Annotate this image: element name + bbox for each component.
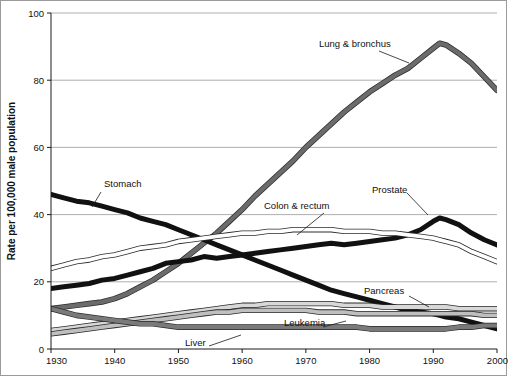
annotation-label-stomach: Stomach [104,178,142,189]
y-tick-label-40: 40 [33,209,44,220]
annotation-leader-lung-bronchus [379,51,409,63]
y-axis-title: Rate per 100,000 male population [6,102,17,260]
x-tick-label-2000: 2000 [487,355,508,366]
x-tick-label-1930: 1930 [46,355,67,366]
annotation-leader-prostate [407,193,428,215]
y-tick-labels: 020406080100 [28,8,51,355]
x-tick-label-1960: 1960 [232,355,253,366]
y-tick-label-100: 100 [28,8,44,19]
cancer-death-rate-line-chart: 020406080100 193019401950196019701980199… [1,1,508,376]
y-tick-label-80: 80 [33,75,44,86]
annotation-label-liver: Liver [185,337,206,348]
x-tick-label-1950: 1950 [168,355,189,366]
x-tick-label-1940: 1940 [104,355,125,366]
y-tick-label-20: 20 [33,276,44,287]
x-tick-labels: 19301940195019601970198019902000 [46,349,508,366]
annotation-leader-liver [209,335,241,346]
annotation-label-prostate: Prostate [372,184,407,195]
x-tick-label-1980: 1980 [359,355,380,366]
annotation-label-lung-bronchus: Lung & bronchus [319,38,391,49]
annotation-label-pancreas: Pancreas [364,285,404,296]
y-tick-label-60: 60 [33,142,44,153]
x-tick-label-1970: 1970 [295,355,316,366]
annotation-label-colon-rectum: Colon & rectum [264,200,330,211]
annotation-label-leukemia: Leukemia [284,317,326,328]
x-tick-label-1990: 1990 [423,355,444,366]
y-tick-label-0: 0 [39,344,44,355]
